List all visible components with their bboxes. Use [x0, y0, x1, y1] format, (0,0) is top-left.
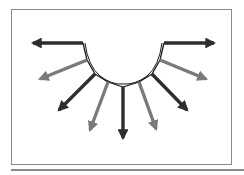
arrow-7-icon	[152, 74, 187, 110]
arrow-fan-diagram	[0, 0, 244, 175]
arrow-3-icon	[59, 74, 95, 110]
arrow-6-icon	[139, 82, 156, 129]
arrow-8-icon	[160, 60, 206, 79]
arc-outer	[83, 43, 164, 87]
arc-inner	[85, 43, 162, 84]
arrow-4-icon	[90, 82, 108, 130]
arrow-2-icon	[40, 60, 87, 79]
